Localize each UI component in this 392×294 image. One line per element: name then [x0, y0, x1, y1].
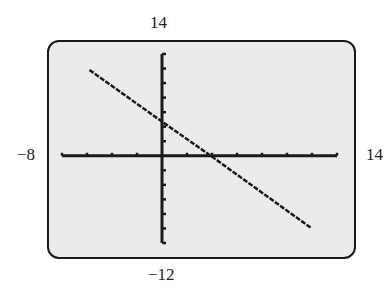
graph-line: [90, 70, 311, 228]
plot-area: [0, 0, 392, 294]
